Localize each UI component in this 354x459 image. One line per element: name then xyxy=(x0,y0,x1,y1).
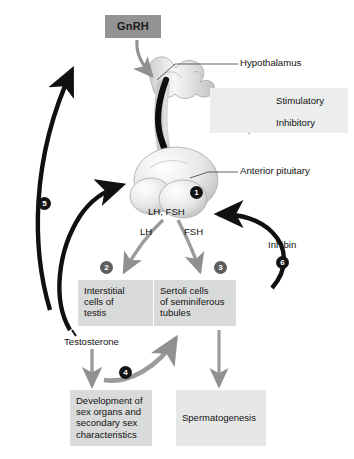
hypothalamus-label: Hypothalamus xyxy=(240,57,301,68)
lh-fsh-label: LH, FSH xyxy=(148,206,185,217)
spermatogenesis-label: Spermatogenesis xyxy=(182,412,256,423)
development-line-2: sex organs and xyxy=(76,406,143,417)
gnrh-label: GnRH xyxy=(117,20,149,33)
interstitial-line-3: testis xyxy=(84,307,125,318)
inhibin-to-pituitary-arrow xyxy=(218,214,284,288)
testosterone-to-hypothalamus-arrow xyxy=(38,70,72,310)
marker-1[interactable]: 1 xyxy=(190,186,203,199)
marker-2[interactable]: 2 xyxy=(100,261,113,274)
anterior-pituitary-label: Anterior pituitary xyxy=(240,165,310,176)
figure-canvas: Stimulatory Inhibitory GnRH Interstitial… xyxy=(0,0,354,459)
inhibin-label: Inhibin xyxy=(268,239,296,250)
marker-6[interactable]: 6 xyxy=(276,256,289,269)
development-box[interactable]: Development of sex organs and secondary … xyxy=(70,390,152,446)
legend-label-inhibitory: Inhibitory xyxy=(276,117,315,128)
sertoli-line-2: of seminiferous xyxy=(160,296,224,307)
sertoli-line-1: Sertoli cells xyxy=(160,285,224,296)
interstitial-line-1: Interstitial xyxy=(84,285,125,296)
fsh-label: FSH xyxy=(184,226,203,237)
development-line-4: characteristics xyxy=(76,429,143,440)
legend-label-stimulatory: Stimulatory xyxy=(276,95,324,106)
marker-5[interactable]: 5 xyxy=(38,197,51,210)
marker-3[interactable]: 3 xyxy=(214,261,227,274)
spermatogenesis-box[interactable]: Spermatogenesis xyxy=(176,390,266,446)
interstitial-cells-box[interactable]: Interstitial cells of testis xyxy=(78,280,153,326)
gnrh-box[interactable]: GnRH xyxy=(105,15,161,38)
development-line-1: Development of xyxy=(76,395,143,406)
sertoli-cells-box[interactable]: Sertoli cells of seminiferous tubules xyxy=(154,280,236,326)
development-line-3: secondary sex xyxy=(76,417,143,428)
interstitial-line-2: cells of xyxy=(84,296,125,307)
sertoli-line-3: tubules xyxy=(160,307,224,318)
marker-4[interactable]: 4 xyxy=(119,366,132,379)
lh-label: LH xyxy=(140,226,152,237)
testosterone-label: Testosterone xyxy=(64,336,119,347)
